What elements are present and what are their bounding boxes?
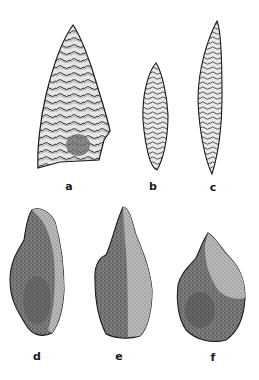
label-c: c bbox=[210, 182, 217, 193]
artifact-c bbox=[198, 21, 222, 174]
artifact-b bbox=[143, 63, 168, 170]
label-f: f bbox=[211, 352, 216, 363]
artifact-e bbox=[95, 207, 152, 338]
artifacts-illustration bbox=[0, 0, 259, 380]
label-d: d bbox=[33, 351, 41, 362]
label-e: e bbox=[115, 351, 122, 362]
label-b: b bbox=[149, 181, 157, 192]
artifact-a bbox=[38, 25, 110, 168]
artifact-d bbox=[10, 209, 64, 336]
label-a: a bbox=[65, 181, 72, 192]
artifact-f bbox=[177, 233, 245, 342]
